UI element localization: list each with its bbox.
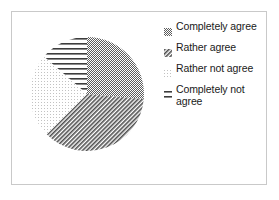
legend-item-rather-not-agree: Rather not agree [164,62,264,74]
legend-label-completely-agree: Completely agree [176,20,257,32]
legend-label-rather-not-agree: Rather not agree [176,62,253,74]
legend-label-completely-not-agree: Completely not agree [176,83,264,107]
legend-item-completely-not-agree: Completely not agree [164,83,264,107]
pie-slice-completely-agree [87,37,144,99]
legend-item-rather-agree: Rather agree [164,41,264,53]
swatch-dense-checker-icon [164,22,172,30]
pie-chart [23,18,151,170]
chart-frame: Completely agree Rather agree Rather not… [11,11,267,185]
legend-label-rather-agree: Rather agree [176,41,236,53]
chart-legend: Completely agree Rather agree Rather not… [164,20,264,180]
swatch-diagonal-hatch-icon [164,43,172,51]
swatch-horizontal-lines-icon [164,85,172,93]
legend-item-completely-agree: Completely agree [164,20,264,32]
swatch-sparse-dots-icon [164,64,172,72]
plot-area: Completely agree Rather agree Rather not… [12,12,268,186]
